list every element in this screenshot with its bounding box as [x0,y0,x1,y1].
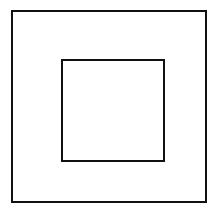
inner-square [62,60,164,161]
figure-canvas [0,0,219,212]
nested-squares-figure [0,0,219,212]
outer-square [12,11,206,202]
